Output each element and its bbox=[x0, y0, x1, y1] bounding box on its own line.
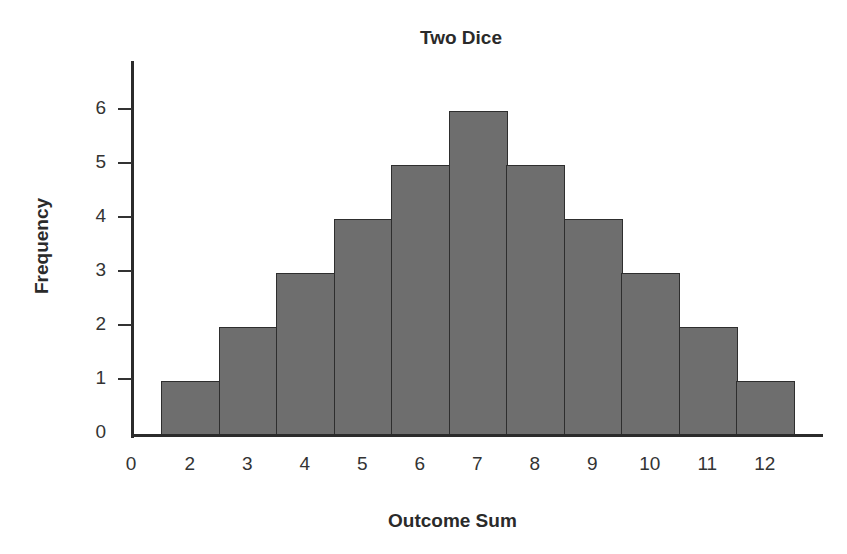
y-tick bbox=[118, 270, 132, 272]
x-tick-label: 5 bbox=[342, 453, 382, 475]
x-tick-label: 10 bbox=[630, 453, 670, 475]
y-axis-label: Frequency bbox=[31, 198, 53, 294]
bar-10 bbox=[621, 273, 680, 435]
y-tick bbox=[118, 162, 132, 164]
x-tick-label: 12 bbox=[745, 453, 785, 475]
x-tick-label: 0 bbox=[111, 453, 151, 475]
x-axis-line bbox=[131, 434, 823, 437]
x-tick-label: 2 bbox=[170, 453, 210, 475]
bar-8 bbox=[506, 165, 565, 435]
y-tick bbox=[118, 324, 132, 326]
x-axis-label: Outcome Sum bbox=[388, 510, 517, 532]
y-tick-label: 5 bbox=[84, 151, 106, 173]
bar-9 bbox=[564, 219, 623, 435]
y-tick bbox=[118, 108, 132, 110]
y-tick-label: 3 bbox=[84, 259, 106, 281]
x-tick-label: 4 bbox=[285, 453, 325, 475]
x-tick-label: 8 bbox=[515, 453, 555, 475]
y-tick bbox=[118, 378, 132, 380]
y-tick-label: 6 bbox=[84, 97, 106, 119]
bar-4 bbox=[276, 273, 335, 435]
y-tick-label: 4 bbox=[84, 205, 106, 227]
y-axis-line bbox=[131, 61, 134, 438]
bar-6 bbox=[391, 165, 450, 435]
bar-7 bbox=[449, 111, 508, 435]
y-tick-label: 1 bbox=[84, 367, 106, 389]
y-tick-label: 0 bbox=[84, 421, 106, 443]
bar-11 bbox=[679, 327, 738, 435]
x-tick-label: 9 bbox=[572, 453, 612, 475]
bar-2 bbox=[161, 381, 220, 435]
y-tick-label: 2 bbox=[84, 313, 106, 335]
x-tick-label: 3 bbox=[227, 453, 267, 475]
x-tick-label: 11 bbox=[687, 453, 727, 475]
bar-12 bbox=[736, 381, 795, 435]
y-tick bbox=[118, 216, 132, 218]
bar-5 bbox=[334, 219, 393, 435]
x-tick-label: 6 bbox=[400, 453, 440, 475]
bar-3 bbox=[219, 327, 278, 435]
chart-title: Two Dice bbox=[420, 27, 502, 49]
x-tick-label: 7 bbox=[457, 453, 497, 475]
